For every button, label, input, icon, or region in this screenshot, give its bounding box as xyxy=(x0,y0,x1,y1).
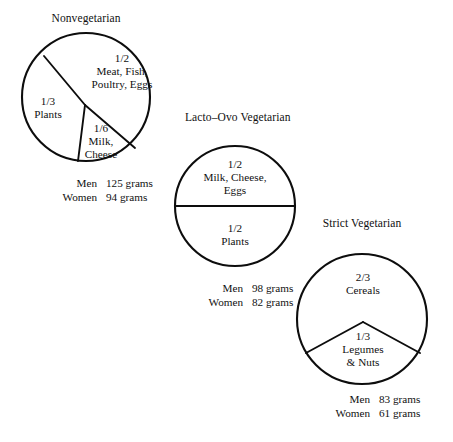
strict-vegetarian-slice-legumes-line1: Legumes xyxy=(328,343,398,356)
strict-vegetarian-legend: Men 83 grams Women 61 grams xyxy=(318,392,453,421)
protein-sources-figure: Nonvegetarian 1/2 Meat, Fish, Poultry, E… xyxy=(0,0,453,442)
strict-vegetarian-slice-legumes-label: 1/3 Legumes & Nuts xyxy=(328,330,398,370)
strict-vegetarian-title-line1: Strict xyxy=(323,217,349,229)
strict-vegetarian-legend-row-women: Women 61 grams xyxy=(318,406,453,420)
strict-vegetarian-slice-legumes-fraction: 1/3 xyxy=(328,330,398,343)
strict-vegetarian-slice-cereals-label: 2/3 Cereals xyxy=(330,271,396,297)
strict-vegetarian-legend-men-label: Men xyxy=(318,392,379,406)
strict-vegetarian-legend-men-amount: 83 grams xyxy=(379,392,437,406)
strict-vegetarian-title-line2: Vegetarian xyxy=(351,217,401,229)
strict-vegetarian-slice-legumes-line2: & Nuts xyxy=(328,356,398,369)
strict-vegetarian-slice-cereals-fraction: 2/3 xyxy=(330,271,396,284)
strict-vegetarian-slice-cereals-line1: Cereals xyxy=(330,284,396,297)
strict-vegetarian-legend-women-label: Women xyxy=(318,406,379,420)
strict-vegetarian-legend-women-amount: 61 grams xyxy=(379,406,437,420)
strict-vegetarian-legend-row-men: Men 83 grams xyxy=(318,392,453,406)
strict-vegetarian-title: Strict Vegetarian xyxy=(312,217,412,231)
